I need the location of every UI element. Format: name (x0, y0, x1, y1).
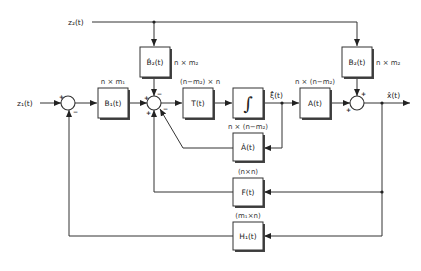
xi-junction (280, 101, 283, 104)
sum-junction-2 (147, 96, 161, 110)
t-dim: (n−m₂) × n (180, 78, 220, 86)
feedback-junction (380, 190, 383, 193)
b1-dim: n × m₁ (101, 78, 126, 86)
h1-label: H₁(t) (239, 232, 257, 241)
b2dot-label: Ḃ₂(t) (147, 58, 164, 67)
b2-label: B₂(t) (349, 58, 366, 67)
sum1-plus: + (59, 93, 64, 100)
z2-label: z₂(t) (68, 18, 84, 27)
a-dim: n × (n−m₂) (295, 78, 335, 86)
sum3-plus-left: + (346, 106, 351, 113)
output-junction (380, 101, 383, 104)
adot-label: Ȧ(t) (241, 143, 255, 152)
x-hat-label: x̂(t) (387, 91, 400, 100)
b2-dim: n × m₂ (376, 59, 401, 67)
sum2-minus-adot: − (163, 105, 168, 112)
b1-label: B₁(t) (105, 99, 122, 108)
sum1-minus: − (73, 108, 78, 115)
integrator-symbol: ∫ (243, 93, 253, 114)
a-label: A(t) (308, 99, 322, 108)
sum3-plus-top: + (361, 90, 366, 97)
block-diagram: Ḃ₂(t) B₁(t) T(t) ∫ A(t) B₂(t) Ȧ(t) F(t… (0, 0, 421, 271)
f-label: F(t) (241, 188, 254, 197)
b2dot-dim: n × m₂ (174, 59, 199, 67)
z1-label: z₁(t) (17, 99, 33, 108)
h1-dim: (m₁×n) (235, 212, 261, 220)
z2-junction (152, 20, 155, 23)
sum2-plus-bottom: + (146, 109, 151, 116)
t-label: T(t) (190, 99, 204, 108)
xi-hat-label: ξ̂(t) (270, 91, 283, 100)
adot-dim: n × (n−m₂) (228, 123, 268, 131)
sum2-plus-left: + (144, 94, 149, 101)
f-dim: (n×n) (238, 168, 258, 176)
sum2-minus-top: − (157, 90, 162, 97)
sum-junction-3 (350, 96, 364, 110)
